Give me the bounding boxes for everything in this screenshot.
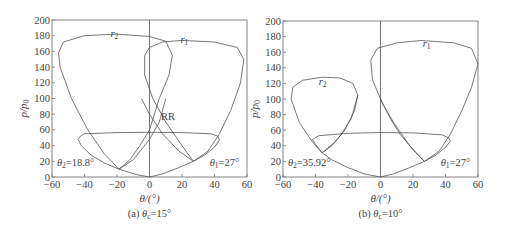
curve-r2 bbox=[59, 34, 173, 169]
curve-cross-left bbox=[322, 95, 358, 153]
y-tick-label: 160 bbox=[34, 46, 50, 57]
figure: 020406080100120140160180200−60−40−200204… bbox=[0, 0, 505, 234]
x-tick-label: −60 bbox=[44, 179, 60, 190]
figure-caption: (a) θc=15° bbox=[128, 208, 171, 221]
y-tick-label: 180 bbox=[265, 31, 281, 42]
figure-caption: (b) θc=10° bbox=[358, 208, 402, 221]
y-axis-label: p/p0 bbox=[17, 99, 31, 118]
annotation: θ2=35.92° bbox=[288, 157, 331, 170]
x-tick-label: 0 bbox=[378, 179, 383, 190]
curve-r1 bbox=[371, 41, 478, 162]
y-tick-label: 140 bbox=[265, 62, 281, 73]
x-tick-label: 40 bbox=[209, 179, 220, 190]
plot-a: 020406080100120140160180200−60−40−200204… bbox=[17, 15, 252, 222]
y-tick-label: 40 bbox=[40, 140, 51, 151]
x-tick-label: −60 bbox=[275, 179, 291, 190]
y-tick-label: 140 bbox=[34, 62, 50, 73]
x-tick-label: 20 bbox=[408, 179, 419, 190]
y-tick-label: 60 bbox=[40, 124, 51, 135]
y-tick-label: 180 bbox=[34, 30, 50, 41]
curve-dome bbox=[312, 133, 450, 178]
y-tick-label: 20 bbox=[271, 156, 282, 167]
y-tick-label: 100 bbox=[265, 94, 281, 105]
series-label-r1: r1 bbox=[423, 38, 431, 51]
x-tick-label: −40 bbox=[76, 179, 92, 190]
x-tick-label: 20 bbox=[177, 179, 188, 190]
x-tick-label: 40 bbox=[440, 179, 451, 190]
series-label-r2: r2 bbox=[111, 28, 119, 41]
y-axis-label: p/p0 bbox=[248, 100, 262, 119]
plot-b: 020406080100120140160180200−60−40−200204… bbox=[248, 16, 483, 222]
annotation: RR bbox=[161, 111, 175, 122]
annotation: θ1=27° bbox=[441, 157, 471, 170]
series-label-r2: r2 bbox=[319, 76, 327, 89]
x-tick-label: 0 bbox=[147, 179, 152, 190]
x-tick-label: 60 bbox=[242, 179, 253, 190]
x-tick-label: −20 bbox=[109, 179, 125, 190]
y-tick-label: 60 bbox=[271, 125, 282, 136]
y-tick-label: 80 bbox=[40, 109, 51, 120]
x-axis-label: θ/(°) bbox=[139, 192, 160, 205]
y-tick-label: 200 bbox=[265, 16, 281, 27]
x-tick-label: −20 bbox=[340, 179, 356, 190]
y-tick-label: 200 bbox=[34, 15, 50, 26]
curve-r1 bbox=[145, 40, 244, 161]
curve-dome bbox=[78, 132, 219, 177]
y-tick-label: 40 bbox=[271, 140, 282, 151]
y-tick-label: 120 bbox=[34, 77, 50, 88]
annotation: θ1=27° bbox=[210, 157, 240, 170]
annotation: θ2=18.8° bbox=[57, 157, 94, 170]
series-label-r1: r1 bbox=[180, 34, 188, 47]
y-tick-label: 100 bbox=[34, 93, 50, 104]
y-tick-label: 160 bbox=[265, 47, 281, 58]
y-tick-label: 80 bbox=[271, 109, 282, 120]
x-axis-label: θ/(°) bbox=[370, 192, 391, 205]
y-tick-label: 20 bbox=[40, 156, 51, 167]
curve-cross-right bbox=[381, 99, 425, 161]
y-tick-label: 120 bbox=[265, 78, 281, 89]
x-tick-label: 60 bbox=[473, 179, 484, 190]
x-tick-label: −40 bbox=[307, 179, 323, 190]
